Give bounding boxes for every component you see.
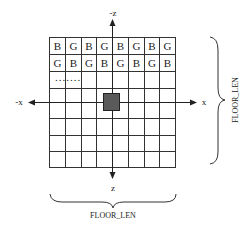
ellipsis: ....... <box>55 71 81 83</box>
floor-grid-diagram: B G B G B G B G G B G B G B G B ....... … <box>0 0 248 228</box>
neg-x-label: -x <box>15 97 23 107</box>
cell-letter: B <box>54 40 61 52</box>
cell-letter: G <box>101 40 109 52</box>
neg-z-label: -z <box>110 8 117 18</box>
cell-letter: B <box>133 57 140 69</box>
right-dimension-label: FLOOR_LEN <box>231 77 240 123</box>
cell-letter: B <box>85 40 92 52</box>
bottom-brace <box>50 194 176 208</box>
pos-x-label: x <box>202 97 207 107</box>
cell-letter: G <box>117 57 125 69</box>
cell-letter: B <box>164 57 171 69</box>
pos-x-arrowhead <box>190 100 197 106</box>
origin-marker <box>104 94 120 111</box>
cell-letter: G <box>164 40 172 52</box>
cell-letter: B <box>70 57 77 69</box>
cell-letter: G <box>70 40 78 52</box>
pos-z-arrowhead <box>110 172 116 179</box>
pos-z-label: z <box>111 183 115 193</box>
neg-z-arrowhead <box>110 19 116 26</box>
cell-letter: G <box>133 40 141 52</box>
neg-x-arrowhead <box>28 100 35 106</box>
bottom-dimension-label: FLOOR_LEN <box>90 211 136 220</box>
cell-letter: G <box>85 57 93 69</box>
right-brace <box>210 37 225 164</box>
cell-letter: B <box>148 40 155 52</box>
cell-letter: G <box>148 57 156 69</box>
cell-letter: B <box>117 40 124 52</box>
cell-letter: G <box>54 57 62 69</box>
cell-letter: B <box>101 57 108 69</box>
